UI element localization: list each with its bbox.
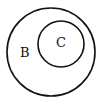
venn-diagram: B C bbox=[0, 0, 102, 103]
set-b-label: B bbox=[20, 45, 30, 60]
set-c-label: C bbox=[56, 35, 66, 50]
